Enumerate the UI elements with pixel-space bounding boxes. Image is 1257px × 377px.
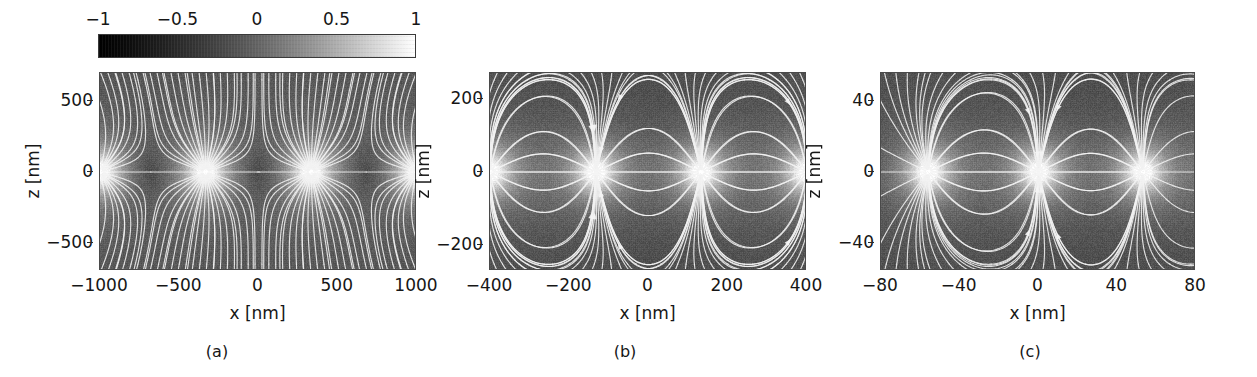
colorbar-tick-label: 0.5 (323, 8, 350, 30)
x-tick-label: 400 (790, 275, 822, 295)
x-tick-label: 40 (1105, 275, 1127, 295)
panel-a: 5000−500 −1000−50005001000 x [nm] z [nm]… (99, 72, 416, 270)
panel-a-ylabel: z [nm] (22, 111, 44, 231)
y-tick-mark (868, 242, 874, 243)
panel-c-ylabel: z [nm] (803, 111, 825, 231)
colorbar: −1−0.500.51 (98, 8, 416, 60)
figure-root: −1−0.500.51 5000−500 −1000−50005001000 x… (0, 0, 1257, 377)
panel-c-x-ticklabels: −80−4004080 (880, 275, 1195, 297)
panel-b: 2000−200 −400−2000200400 x [nm] z [nm] (… (489, 72, 806, 270)
colorbar-tick-label: 1 (411, 8, 422, 30)
panel-c-xlabel: x [nm] (880, 302, 1195, 324)
colorbar-tick-label: −1 (85, 8, 110, 30)
y-tick-mark (868, 100, 874, 101)
x-tick-label: −400 (466, 275, 513, 295)
y-tick-mark (87, 242, 93, 243)
x-tick-label: 200 (711, 275, 743, 295)
x-tick-label: 500 (321, 275, 353, 295)
colorbar-gradient (98, 34, 416, 58)
panel-b-ylabel: z [nm] (412, 111, 434, 231)
colorbar-tick-label: 0 (252, 8, 263, 30)
y-tick-label: −200 (436, 234, 483, 254)
panel-b-xlabel: x [nm] (489, 302, 806, 324)
y-tick-mark (477, 171, 483, 172)
y-tick-mark (477, 98, 483, 99)
panel-c: 400−40 −80−4004080 x [nm] z [nm] (c) (880, 72, 1195, 270)
panel-c-caption: (c) (1000, 342, 1060, 362)
panel-a-plot-area (99, 72, 416, 270)
colorbar-tick-label: −0.5 (157, 8, 198, 30)
panel-b-plot-area (489, 72, 806, 270)
panel-a-xlabel: x [nm] (99, 302, 416, 324)
y-tick-label: −500 (46, 232, 93, 252)
panel-a-caption: (a) (187, 342, 247, 362)
panel-b-field-image (490, 73, 806, 270)
y-tick-mark (87, 171, 93, 172)
panel-a-field-image (100, 73, 416, 270)
x-tick-label: −500 (155, 275, 202, 295)
x-tick-label: 0 (252, 275, 263, 295)
x-tick-label: 0 (642, 275, 653, 295)
colorbar-tick-labels: −1−0.500.51 (98, 8, 416, 32)
panel-b-caption: (b) (595, 342, 655, 362)
x-tick-label: −1000 (70, 275, 128, 295)
x-tick-label: −40 (941, 275, 977, 295)
y-tick-mark (477, 244, 483, 245)
panel-b-x-ticklabels: −400−2000200400 (489, 275, 806, 297)
y-tick-mark (868, 171, 874, 172)
panel-a-x-ticklabels: −1000−50005001000 (99, 275, 416, 297)
panel-c-plot-area (880, 72, 1195, 270)
x-tick-label: −200 (545, 275, 592, 295)
y-tick-mark (87, 100, 93, 101)
x-tick-label: 1000 (394, 275, 437, 295)
x-tick-label: 80 (1184, 275, 1206, 295)
x-tick-label: −80 (862, 275, 898, 295)
panel-c-field-image (881, 73, 1195, 270)
x-tick-label: 0 (1032, 275, 1043, 295)
